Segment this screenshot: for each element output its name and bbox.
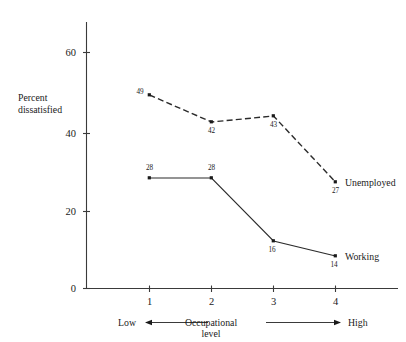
arrow-left-icon	[145, 320, 152, 325]
series-line-working	[150, 178, 336, 256]
point-label-unemployed-2: 42	[208, 127, 216, 135]
marker-working-1	[148, 176, 151, 179]
x-annotation-high: High	[348, 317, 368, 328]
x-tick-label-1: 1	[147, 296, 152, 307]
y-tick-label-0: 0	[71, 283, 76, 294]
y-axis-title-line2: dissatisfied	[18, 104, 62, 115]
point-label-unemployed-1: 49	[136, 88, 144, 96]
x-tick-label-3: 3	[271, 296, 276, 307]
y-tick-label-40: 40	[66, 128, 77, 139]
point-label-unemployed-3: 43	[270, 121, 278, 129]
marker-working-4	[334, 254, 337, 257]
x-annotation-occupational: Occupational	[185, 317, 238, 328]
marker-working-3	[272, 239, 275, 242]
chart-figure: 60 40 20 0 Percent dissatisfied 1 2 3 4 …	[0, 0, 406, 342]
y-tick-label-20: 20	[66, 206, 77, 217]
point-label-working-3: 16	[268, 246, 276, 254]
x-tick-label-4: 4	[333, 296, 339, 307]
marker-working-2	[210, 176, 213, 179]
marker-unemployed-4	[334, 180, 337, 183]
y-tick-label-60: 60	[66, 47, 77, 58]
x-annotation-level: level	[201, 328, 220, 339]
point-label-working-2: 28	[208, 164, 216, 172]
arrow-right-icon	[334, 320, 341, 325]
x-tick-label-2: 2	[209, 296, 214, 307]
x-annotation-low: Low	[118, 317, 137, 328]
y-axis-title-line1: Percent	[18, 92, 48, 103]
marker-unemployed-1	[148, 93, 151, 96]
series-line-unemployed	[150, 95, 336, 182]
marker-unemployed-2	[210, 120, 213, 123]
series-label-working: Working	[345, 251, 379, 262]
point-label-working-1: 28	[146, 164, 154, 172]
series-label-unemployed: Unemployed	[345, 177, 396, 188]
line-chart-svg: 60 40 20 0 Percent dissatisfied 1 2 3 4 …	[0, 0, 406, 342]
point-label-working-4: 14	[330, 261, 338, 269]
point-label-unemployed-4: 27	[332, 187, 340, 195]
marker-unemployed-3	[272, 114, 275, 117]
